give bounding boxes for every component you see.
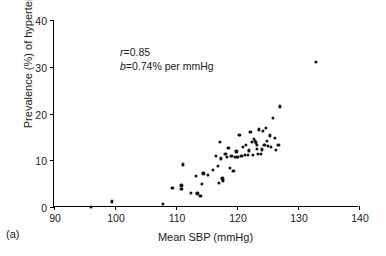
- data-point: [238, 133, 241, 136]
- data-point: [232, 169, 235, 172]
- data-point: [217, 182, 220, 185]
- data-point: [206, 173, 209, 176]
- data-point: [202, 172, 205, 175]
- data-point: [250, 140, 253, 143]
- annotation-b: b=0.74% per mmHg: [120, 59, 214, 73]
- data-point: [199, 194, 202, 197]
- y-tick-label: 10: [35, 156, 47, 167]
- x-tick-label: 100: [107, 213, 125, 224]
- data-point: [251, 153, 254, 156]
- data-point: [180, 187, 183, 190]
- data-point: [259, 153, 262, 156]
- data-point: [227, 146, 230, 149]
- data-point: [211, 168, 214, 171]
- data-point: [278, 105, 281, 108]
- data-point: [271, 116, 274, 119]
- data-point: [260, 148, 263, 151]
- data-point: [228, 167, 231, 170]
- y-tick-label: 0: [41, 203, 47, 214]
- data-point: [264, 126, 267, 129]
- data-point: [221, 179, 224, 182]
- x-tick: 90: [54, 206, 55, 210]
- data-point: [265, 139, 268, 142]
- panel-label: (a): [6, 229, 19, 240]
- data-point: [215, 154, 218, 157]
- data-point: [268, 134, 271, 137]
- x-tick: 130: [298, 206, 299, 210]
- figure-panel-a: 010203040 90100110120130140 r=0.85 b=0.7…: [0, 0, 386, 256]
- data-point: [189, 191, 192, 194]
- y-tick-label: 40: [35, 16, 47, 27]
- data-point: [235, 150, 238, 153]
- data-point: [246, 153, 249, 156]
- data-point: [110, 200, 113, 203]
- annotation-b-value: =0.74% per mmHg: [126, 60, 214, 72]
- data-point: [89, 205, 92, 208]
- data-point: [226, 155, 229, 158]
- data-point: [314, 60, 317, 63]
- y-tick: 20: [50, 114, 54, 115]
- data-point: [273, 136, 276, 139]
- data-point: [249, 130, 252, 133]
- annotation-r: r=0.85: [120, 45, 214, 59]
- y-tick-label: 30: [35, 63, 47, 74]
- data-point: [257, 128, 260, 131]
- y-tick: 40: [50, 20, 54, 21]
- data-point: [220, 157, 223, 160]
- data-point: [270, 145, 273, 148]
- data-point: [161, 203, 164, 206]
- y-axis-title: Prevalence (%) of hypertension: [23, 0, 34, 132]
- data-point: [194, 175, 197, 178]
- data-point: [171, 187, 174, 190]
- plot-frame: 010203040 90100110120130140 r=0.85 b=0.7…: [53, 20, 358, 207]
- x-tick-label: 90: [49, 213, 61, 224]
- y-tick: 10: [50, 160, 54, 161]
- annotation-r-value: =0.85: [124, 46, 151, 58]
- stats-annotation: r=0.85 b=0.74% per mmHg: [120, 45, 214, 74]
- x-tick-label: 130: [290, 213, 308, 224]
- data-point: [200, 182, 203, 185]
- data-point: [216, 164, 219, 167]
- y-tick: 30: [50, 67, 54, 68]
- data-point: [274, 148, 277, 151]
- data-point: [218, 140, 221, 143]
- y-tick-label: 20: [35, 109, 47, 120]
- data-point: [245, 143, 248, 146]
- data-point: [255, 144, 258, 147]
- x-tick-label: 120: [229, 213, 247, 224]
- data-point: [277, 143, 280, 146]
- data-point: [181, 163, 184, 166]
- x-tick: 120: [237, 206, 238, 210]
- x-tick-label: 140: [351, 213, 369, 224]
- x-tick: 100: [115, 206, 116, 210]
- data-point: [262, 130, 265, 133]
- data-point: [242, 146, 245, 149]
- data-point: [256, 147, 259, 150]
- x-tick: 110: [176, 206, 177, 210]
- x-tick-label: 110: [169, 213, 186, 224]
- data-point: [248, 149, 251, 152]
- x-axis-title: Mean SBP (mmHg): [53, 232, 358, 243]
- x-tick: 140: [359, 206, 360, 210]
